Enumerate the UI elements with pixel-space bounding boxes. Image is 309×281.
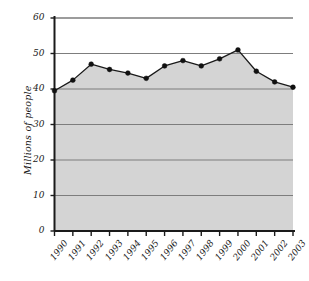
area-fill — [55, 18, 294, 231]
y-tick-label: 30 — [23, 119, 45, 129]
data-point-marker — [181, 58, 186, 63]
data-point-marker — [291, 85, 296, 90]
y-tick-label: 0 — [23, 225, 45, 235]
area-fill-shape — [55, 50, 294, 231]
data-point-marker — [162, 64, 167, 69]
data-point-marker — [236, 48, 241, 53]
data-point-marker — [254, 69, 259, 74]
data-point-marker — [107, 67, 112, 72]
data-point-marker — [272, 80, 277, 85]
data-point-marker — [89, 62, 94, 67]
chart-container: Millions of people 0102030405060 1990199… — [0, 0, 309, 281]
data-point-marker — [144, 76, 149, 81]
y-tick-label: 50 — [23, 48, 45, 58]
data-point-marker — [199, 64, 204, 69]
y-tick-label: 60 — [23, 12, 45, 22]
data-point-marker — [125, 71, 130, 76]
data-point-marker — [70, 78, 75, 83]
data-point-marker — [52, 88, 57, 93]
y-tick-label: 10 — [23, 190, 45, 200]
y-tick-label: 40 — [23, 83, 45, 93]
data-point-marker — [217, 56, 222, 61]
y-tick-label: 20 — [23, 154, 45, 164]
